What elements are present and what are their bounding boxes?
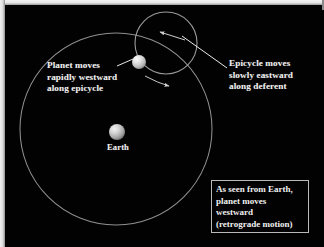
earth-sphere [109,124,125,140]
epicycle-motion-label: Epicycle moves slowly eastward along def… [229,58,323,93]
earth-label: Earth [101,142,135,154]
retrograde-callout-text: As seen from Earth, planet moves westwar… [216,184,312,230]
figure-border-top [0,0,324,5]
epicycle-diagram: Planet moves rapidly westward along epic… [0,0,324,247]
planet-motion-label: Planet moves rapidly westward along epic… [47,60,142,95]
figure-border-left [0,0,5,247]
